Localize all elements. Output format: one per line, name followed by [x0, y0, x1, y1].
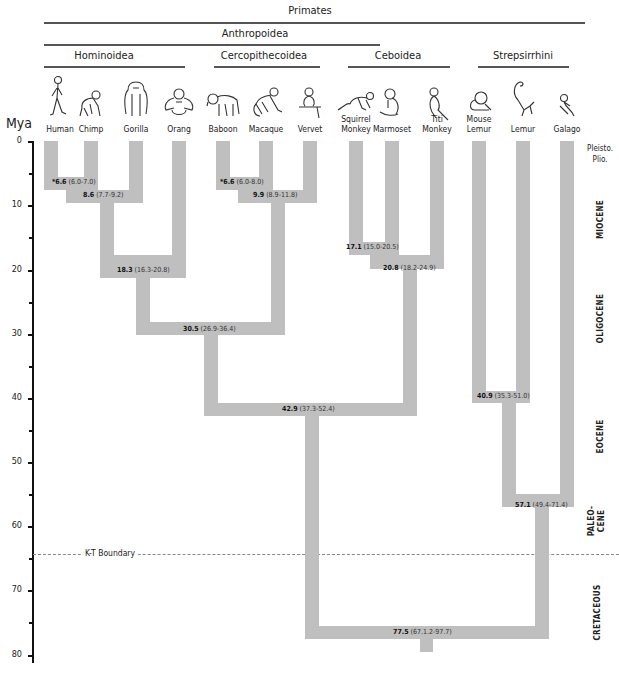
node-label-hominoid: 18.3 (16.3-20.8) — [117, 266, 170, 275]
epoch-label-miocene: MIOCENE — [596, 195, 605, 245]
species-label-marmoset: Marmoset — [373, 124, 411, 134]
y-tick-label-80: 80 — [0, 649, 22, 659]
y-tick-label-40: 40 — [0, 392, 22, 402]
clade-label-anthropoidea: Anthropoidea — [222, 27, 289, 40]
species-label-titi-monkey: TitiMonkey — [422, 114, 451, 134]
y-tick-50 — [28, 462, 33, 464]
species-label-galago: Galago — [554, 124, 581, 134]
branch-ml-stem — [502, 403, 516, 507]
marmoset-icon — [378, 86, 406, 118]
y-minor-tick — [29, 173, 33, 175]
branch-cercopith-stem — [271, 203, 285, 334]
branch-strep-stem — [535, 507, 549, 638]
clade-label-ceboidea: Ceboidea — [375, 49, 422, 62]
node-label-squirrel-marmoset: 17.1 (15.0-20.5) — [346, 243, 399, 252]
node-label-strepsirrhini: 57.1 (49.4-71.4) — [515, 501, 568, 510]
species-label-mouse-lemur: MouseLemur — [467, 114, 492, 134]
species-label-human: Human — [46, 124, 74, 134]
clade-label-primates: Primates — [288, 4, 331, 17]
y-tick-label-30: 30 — [0, 328, 22, 338]
y-tick-label-50: 50 — [0, 456, 22, 466]
species-label-lemur: Lemur — [511, 124, 535, 134]
clade-label-hominoidea: Hominoidea — [74, 49, 133, 62]
y-minor-tick — [29, 302, 33, 304]
epoch-label-oligocene: OLIGOCENE — [596, 289, 605, 349]
y-axis-line — [32, 141, 34, 663]
human-icon — [46, 74, 70, 118]
clade-line-anthropoidea — [44, 44, 380, 46]
branch-mouse-lemur — [472, 141, 486, 403]
node-label-primates: 77.5 (67.1.2-97.7) — [393, 628, 452, 637]
y-tick-70 — [28, 590, 33, 592]
y-tick-80 — [28, 655, 33, 657]
y-minor-tick — [29, 494, 33, 496]
clade-label-strepsirrhini: Strepsirrhini — [493, 49, 553, 62]
species-label-orang: Orang — [167, 124, 191, 134]
clade-line-primates — [44, 22, 585, 24]
branch-titi-monkey — [430, 141, 444, 269]
species-label-baboon: Baboon — [209, 124, 238, 134]
mouse-lemur-icon — [465, 90, 493, 112]
epoch-label-paleocene: PALEO-CENE — [587, 491, 607, 551]
node-label-mouselemur-lemur: 40.9 (35.3-51.0) — [477, 392, 530, 401]
clade-line-cercopithecoidea — [214, 66, 320, 68]
y-tick-30 — [28, 334, 33, 336]
y-minor-tick — [29, 622, 33, 624]
y-tick-40 — [28, 398, 33, 400]
node-label-bm-vervet: 9.9 (8.9-11.8) — [253, 191, 297, 200]
node-label-anthropoidea: 42.9 (37.3-52.4) — [282, 405, 335, 414]
squirrel-monkey-icon — [336, 90, 376, 114]
branch-marmoset — [385, 141, 399, 255]
y-minor-tick — [29, 558, 33, 560]
epoch-label-cretaceous: CRETACEOUS — [593, 578, 602, 648]
lemur-icon — [510, 80, 536, 118]
y-minor-tick — [29, 366, 33, 368]
kt-boundary-label: K-T Boundary — [82, 548, 138, 558]
branch-squirrel-monkey — [349, 141, 363, 255]
branch-ceboid-stem — [403, 269, 417, 415]
y-minor-tick — [29, 430, 33, 432]
orangutan-icon — [162, 86, 196, 118]
branch-root — [420, 639, 433, 652]
node-label-human-chimp: *6.6 (6.0-7.0) — [52, 178, 96, 187]
species-label-gorilla: Gorilla — [124, 124, 149, 134]
y-tick-label-70: 70 — [0, 584, 22, 594]
branch-lemur — [516, 141, 530, 403]
galago-icon — [554, 92, 580, 118]
species-label-chimp: Chimp — [79, 124, 104, 134]
y-tick-label-10: 10 — [0, 199, 22, 209]
node-label-sm-titi: 20.8 (18.2-24.9) — [383, 264, 436, 273]
y-tick-60 — [28, 526, 33, 528]
species-label-macaque: Macaque — [249, 124, 284, 134]
species-label-squirrel-monkey: SquirrelMonkey — [341, 114, 370, 134]
epoch-label-eocene: EOCENE — [596, 412, 605, 462]
y-tick-label-0: 0 — [0, 135, 22, 145]
node-label-baboon-macaque: *6.6 (6.0-8.0) — [220, 178, 264, 187]
epoch-label-pleistocene-pliocene: Pleisto.Plio. — [580, 143, 619, 165]
node-label-hc-gorilla: 8.6 (7.7-9.2) — [83, 191, 123, 200]
vervet-icon — [297, 86, 323, 120]
species-label-vervet: Vervet — [298, 124, 323, 134]
y-axis-title: Mya — [6, 115, 32, 131]
chimp-icon — [76, 88, 106, 118]
y-tick-10 — [28, 205, 33, 207]
macaque-icon — [248, 86, 284, 118]
clade-line-strepsirrhini — [478, 66, 569, 68]
clade-label-cercopithecoidea: Cercopithecoidea — [221, 49, 307, 62]
branch-anthropoidea-stem — [305, 416, 319, 638]
y-tick-label-20: 20 — [0, 264, 22, 274]
baboon-icon — [205, 90, 241, 118]
y-minor-tick — [29, 237, 33, 239]
branch-galago — [560, 141, 574, 507]
node-label-old-world: 30.5 (26.9-36.4) — [183, 325, 236, 334]
y-tick-20 — [28, 270, 33, 272]
clade-line-hominoidea — [44, 66, 185, 68]
y-tick-label-60: 60 — [0, 520, 22, 530]
y-tick-0 — [28, 141, 33, 143]
gorilla-icon — [122, 80, 150, 118]
clade-line-ceboidea — [348, 66, 450, 68]
